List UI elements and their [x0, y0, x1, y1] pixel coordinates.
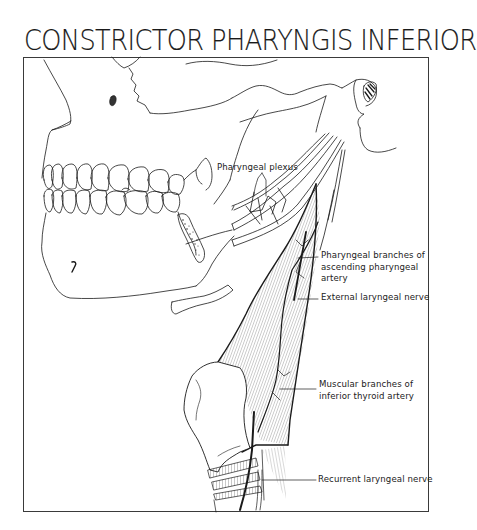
label-pharyngeal-branches-line1: Pharyngeal branches of: [321, 250, 425, 262]
stylo-muscles: [232, 133, 345, 250]
label-recurrent-laryngeal-nerve: Recurrent laryngeal nerve: [318, 474, 433, 486]
label-pharyngeal-plexus: Pharyngeal plexus: [217, 162, 298, 174]
label-muscular-branches: Muscular branches of inferior thyroid ar…: [319, 379, 414, 402]
thyroid-cartilage: [184, 362, 250, 472]
label-pharyngeal-branches-line2: ascending pharyngeal: [321, 262, 425, 274]
label-external-laryngeal-nerve: External laryngeal nerve: [321, 292, 429, 304]
label-muscular-branches-line2: inferior thyroid artery: [319, 391, 414, 403]
label-muscular-branches-line1: Muscular branches of: [319, 379, 414, 391]
label-pharyngeal-branches-line3: artery: [321, 273, 425, 285]
skull-outline: [42, 57, 396, 204]
maxillary-teeth: [43, 164, 184, 195]
mental-foramen: [72, 262, 76, 272]
infraorbital-foramen: [110, 96, 117, 106]
mandibular-teeth: [44, 188, 180, 215]
mandible: [42, 158, 234, 299]
label-pharyngeal-branches: Pharyngeal branches of ascending pharyng…: [321, 250, 425, 285]
